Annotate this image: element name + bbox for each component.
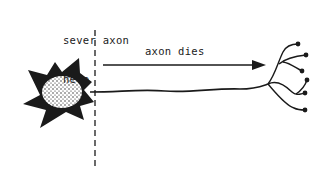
sever-label-line1: sever axon bbox=[63, 34, 129, 47]
terminal-bulbs bbox=[296, 42, 310, 113]
neuron-diagram: sever axon here axon dies bbox=[0, 0, 328, 181]
axon-dies-label: axon dies bbox=[145, 45, 205, 58]
sever-axon-label: sever axon here bbox=[63, 8, 129, 112]
sever-label-line2: here bbox=[63, 73, 129, 86]
axon-terminals bbox=[268, 44, 307, 110]
diagram-drawing bbox=[0, 0, 328, 181]
